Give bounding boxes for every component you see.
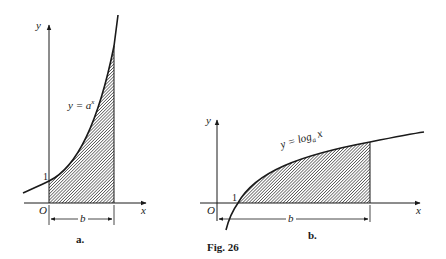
shaded-area-b [238, 142, 370, 203]
y-axis-label-b: y [206, 115, 211, 126]
curve-label-a: y = ax [67, 99, 95, 111]
intercept-label-a: 1 [43, 172, 48, 182]
panel-label-b: b. [308, 230, 317, 241]
curve-label-a-text: y = a [68, 99, 91, 111]
origin-label-a: O [39, 205, 47, 216]
shaded-area-a [49, 46, 114, 203]
figure-canvas [0, 0, 446, 259]
panel-a [23, 15, 146, 225]
origin-label-b: O [207, 205, 215, 216]
y-axis-label-a: y [36, 20, 41, 31]
panel-label-a: a. [76, 234, 84, 245]
curve-label-a-exponent: x [91, 98, 94, 106]
width-label-b: b [286, 213, 296, 224]
x-axis-label-a: x [141, 205, 146, 216]
figure-caption: Fig. 26 [207, 242, 239, 253]
width-label-a: b [78, 213, 88, 224]
intercept-label-b: 1 [232, 193, 237, 203]
x-axis-label-b: x [416, 205, 421, 216]
